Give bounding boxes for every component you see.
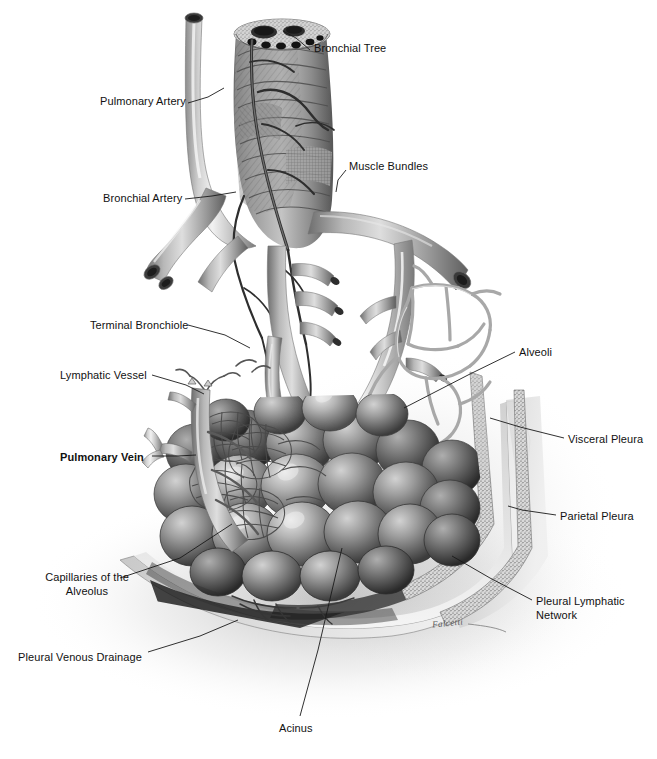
label-acinus: Acinus	[279, 721, 313, 735]
label-pleural-lymphatic-network: Pleural Lymphatic Network	[536, 594, 625, 622]
label-visceral-pleura: Visceral Pleura	[568, 432, 643, 446]
label-parietal-pleura: Parietal Pleura	[560, 509, 634, 523]
label-pulmonary-vein: Pulmonary Vein	[60, 450, 144, 464]
leader-terminal-bronchiole	[188, 325, 250, 348]
label-terminal-bronchiole: Terminal Bronchiole	[90, 318, 189, 332]
terminal-bronchiole-branch	[265, 336, 282, 404]
label-muscle-bundles: Muscle Bundles	[349, 159, 428, 173]
label-capillaries-of-the-alveolus: Capillaries of the Alveolus	[28, 570, 146, 598]
label-pleural-venous-drainage: Pleural Venous Drainage	[18, 650, 142, 664]
anatomical-figure: Bronchial Tree Pulmonary Artery Muscle B…	[0, 0, 657, 759]
label-pleural-lymphatic-line-2: Network	[536, 608, 625, 622]
label-pulmonary-artery: Pulmonary Artery	[100, 94, 186, 108]
label-capillaries-line-2: Alveolus	[28, 584, 146, 598]
label-capillaries-line-1: Capillaries of the	[28, 570, 146, 584]
leader-muscle-bundles	[336, 170, 346, 192]
label-alveoli: Alveoli	[519, 345, 552, 359]
label-lymphatic-vessel: Lymphatic Vessel	[60, 368, 147, 382]
label-bronchial-artery: Bronchial Artery	[103, 191, 182, 205]
muscle-bundle-patch	[286, 146, 332, 186]
label-pleural-lymphatic-line-1: Pleural Lymphatic	[536, 594, 625, 608]
label-bronchial-tree: Bronchial Tree	[314, 41, 386, 55]
